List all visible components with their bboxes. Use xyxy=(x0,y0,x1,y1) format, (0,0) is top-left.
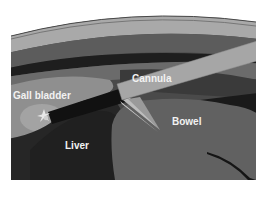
label-gall-bladder: Gall bladder xyxy=(13,91,71,101)
illustration-canvas xyxy=(0,0,267,206)
laparoscopy-illustration: Cannula Gall bladder Liver Bowel xyxy=(0,0,267,206)
label-liver: Liver xyxy=(65,141,89,151)
label-cannula: Cannula xyxy=(132,74,171,84)
bowel xyxy=(111,99,267,180)
label-bowel: Bowel xyxy=(172,117,201,127)
